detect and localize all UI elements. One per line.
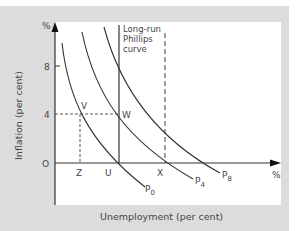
plot-area	[55, 22, 281, 205]
x-label: X	[157, 168, 163, 178]
lrpc-label-line1: Long-run	[123, 24, 161, 34]
y-unit-label: %	[42, 21, 51, 31]
phillips-curve-diagram: % 8 4 O Z U X V W Long-run Phillips curv…	[0, 0, 296, 231]
x-unit-label: %	[272, 170, 281, 180]
y-axis-title: Inflation (per cent)	[13, 61, 24, 171]
lrpc-label-line2: Phillips	[123, 34, 153, 44]
point-w-label: W	[122, 110, 131, 120]
origin-label: O	[42, 159, 49, 169]
tick-label-8: 8	[44, 62, 50, 72]
tick-label-4: 4	[44, 110, 50, 120]
lrpc-label-line3: curve	[123, 44, 147, 54]
x-axis-title: Unemployment (per cent)	[100, 211, 223, 222]
point-v-label: V	[81, 101, 88, 111]
u-label: U	[105, 168, 112, 178]
z-label: Z	[76, 168, 82, 178]
